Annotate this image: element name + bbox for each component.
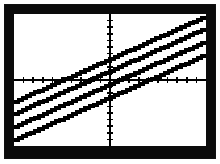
graph-svg bbox=[14, 14, 206, 146]
calculator-screenshot bbox=[0, 0, 220, 164]
graph-plot-area[interactable] bbox=[14, 14, 206, 146]
